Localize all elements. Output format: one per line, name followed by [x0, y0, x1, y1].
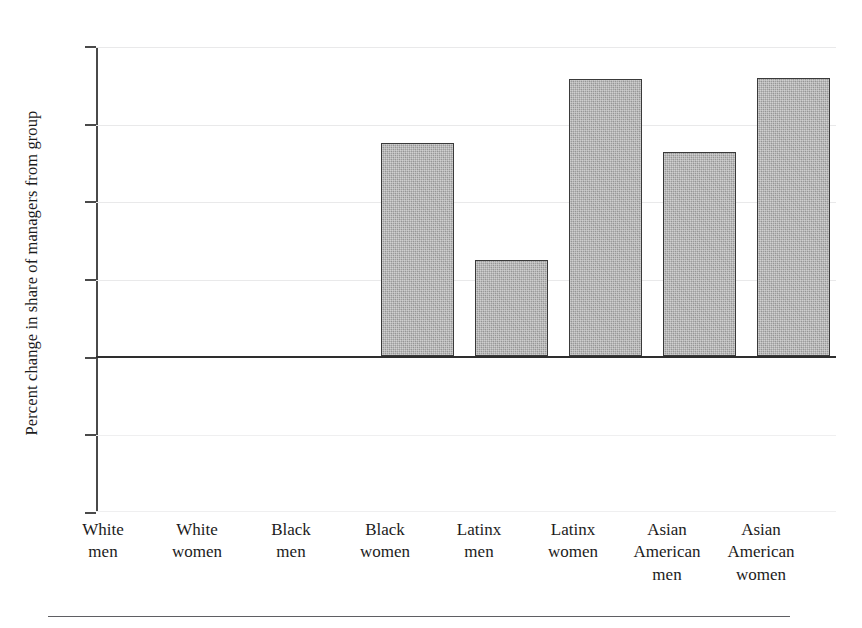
y-tick-mark-15 [85, 124, 96, 126]
plot-area [96, 47, 836, 511]
bar-asian-american-men[interactable] [663, 152, 736, 356]
bar-black-women[interactable] [381, 143, 454, 356]
x-tick-line1: Asian [696, 519, 826, 541]
y-tick-mark-10 [85, 201, 96, 203]
bottom-separator-rule [48, 616, 790, 617]
bar-asian-american-women[interactable] [757, 78, 830, 356]
bars-container [96, 47, 836, 356]
y-tick-mark-20 [85, 46, 96, 48]
x-tick-line2: American [696, 541, 826, 563]
y-axis-title: Percent change in share of managers from… [22, 38, 42, 508]
y-tick-mark-0 [85, 357, 96, 359]
x-tick-line3: women [696, 564, 826, 586]
bar-chart-figure: Percent change in share of managers from… [0, 0, 862, 628]
x-tick-label-asian-american-women: Asian American women [696, 519, 826, 586]
bar-latinx-women[interactable] [569, 79, 642, 356]
y-tick-mark-5 [85, 279, 96, 281]
gridline-minus10 [96, 511, 836, 512]
y-tick-mark-minus5 [85, 434, 96, 436]
y-tick-mark-minus10 [85, 512, 96, 514]
bar-latinx-men[interactable] [475, 260, 548, 356]
zero-baseline [96, 356, 836, 358]
gridline-minus5 [96, 435, 836, 436]
